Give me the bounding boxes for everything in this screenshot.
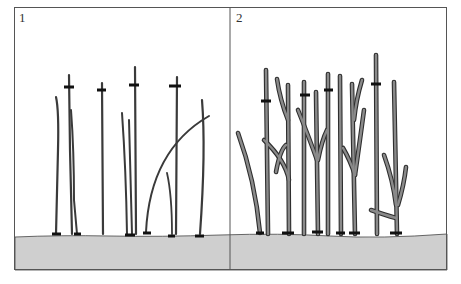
stem <box>167 173 172 234</box>
panel-2-stems <box>238 55 406 234</box>
panel-1-stems <box>56 67 209 234</box>
stem <box>129 120 132 234</box>
stem <box>56 97 58 234</box>
illustration <box>0 0 461 284</box>
stem <box>102 83 103 234</box>
stem <box>69 75 72 234</box>
stem <box>122 113 127 234</box>
stem <box>176 77 177 234</box>
stem <box>135 67 136 234</box>
ground <box>15 234 447 270</box>
